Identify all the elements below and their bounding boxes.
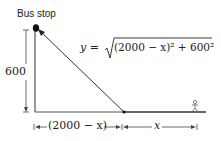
- formula-radicand: (2000 − x)² + 600²: [114, 41, 214, 53]
- formula-lhs: y =: [80, 41, 99, 54]
- bus-stop-dot: [33, 24, 39, 32]
- height-label: 600: [5, 65, 26, 78]
- diagram-canvas: [0, 0, 221, 141]
- right-distance-label: x: [154, 119, 160, 132]
- left-distance-label: (2000 − x): [48, 119, 107, 132]
- person-icon: [192, 100, 198, 112]
- turn-point-dot: [122, 110, 125, 113]
- bus-stop-label: Bus stop: [17, 8, 56, 19]
